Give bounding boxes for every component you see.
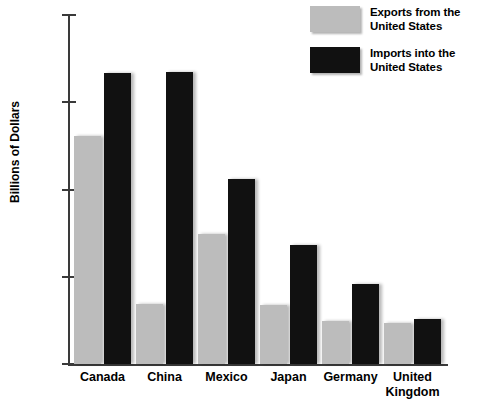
bar-exports <box>384 323 411 364</box>
bar-group <box>384 15 441 364</box>
bar-exports <box>322 321 349 364</box>
x-axis-category-labels: CanadaChinaMexicoJapanGermanyUnited King… <box>68 370 448 414</box>
bar-imports <box>352 284 379 364</box>
bar-imports <box>290 245 317 364</box>
bar-group <box>136 15 193 364</box>
bar-imports <box>414 319 441 364</box>
x-axis-category-label: United Kingdom <box>374 370 451 400</box>
bar-imports <box>166 72 193 364</box>
bar-group <box>74 15 131 364</box>
y-axis-title-wrap: Billions of Dollars <box>12 0 32 349</box>
bar-chart: Exports from the United States Imports i… <box>0 0 480 415</box>
y-axis-title: Billions of Dollars <box>8 101 22 203</box>
bar-exports <box>74 136 101 364</box>
bar-exports <box>136 304 163 364</box>
plot-area: $400$300$200$100$0 <box>68 15 448 364</box>
x-axis-line <box>68 364 448 366</box>
bar-imports <box>228 179 255 364</box>
bar-exports <box>260 305 287 364</box>
bar-imports <box>104 73 131 364</box>
bar-group <box>198 15 255 364</box>
bar-group <box>260 15 317 364</box>
bar-series-container <box>68 15 448 364</box>
bar-exports <box>198 234 225 364</box>
bar-group <box>322 15 379 364</box>
